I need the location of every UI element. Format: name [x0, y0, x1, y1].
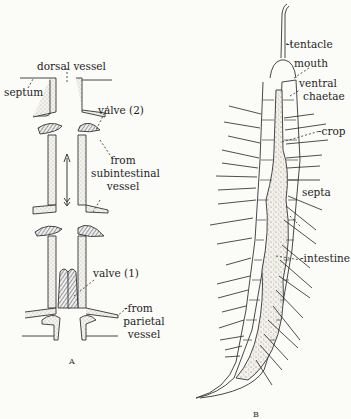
- label-septum: septum: [4, 87, 43, 98]
- label-from-subintestinal-line2: subintestinal: [91, 168, 155, 179]
- label-from-parietal-line3: vessel: [122, 329, 166, 340]
- label-intestine: -intestine: [300, 253, 350, 264]
- label-septa: septa: [302, 187, 331, 198]
- label-valve-1: valve (1): [93, 268, 139, 279]
- panel-letter-a: A: [69, 357, 75, 366]
- label-from-parietal-line1: -from: [124, 303, 153, 314]
- label-dorsal-vessel: dorsal vessel: [37, 61, 106, 72]
- label-from-subintestinal-line1: from: [91, 155, 155, 166]
- label-ventral-chaetae-line1: ventral: [299, 78, 337, 89]
- label-valve-2: valve (2): [98, 105, 144, 116]
- label-from-subintestinal-line3: vessel: [91, 181, 155, 192]
- label-ventral-chaetae-line2: chaetae: [303, 91, 345, 102]
- label-from-parietal-line2: parietal: [122, 316, 166, 327]
- label-mouth: mouth: [294, 58, 328, 69]
- label-tentacle: -tentacle: [286, 39, 333, 50]
- label-crop: -crop: [318, 126, 346, 137]
- panel-letter-b: B: [253, 410, 259, 419]
